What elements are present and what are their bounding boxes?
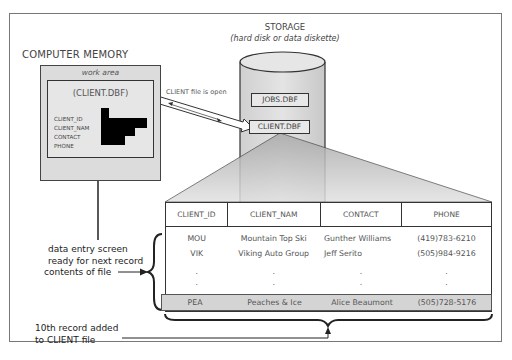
field-label: CLIENT_ID (54, 115, 89, 124)
field-label: PHONE (54, 142, 89, 151)
cell: (419)783-6210 (402, 233, 492, 248)
contents-of-file-label: contents of file (44, 266, 111, 278)
cell: Gunther Williams (320, 233, 402, 248)
added-brace (165, 314, 492, 326)
file-projection (165, 133, 492, 202)
column-header: CLIENT_NAM (227, 203, 320, 227)
cell: (505)984-9216 (402, 248, 492, 263)
cell: Mountain Top Ski (227, 233, 320, 248)
cell: Peaches & Ice (228, 298, 321, 307)
table-row: VIK Viking Auto Group Jeff Serito (505)9… (166, 248, 492, 263)
memory-title: COMPUTER MEMORY (22, 49, 128, 60)
data-entry-screen: (CLIENT.DBF) CLIENT_ID CLIENT_NAM CONTAC… (47, 80, 154, 158)
record-added-label: 10th record added to CLIENT file (35, 322, 118, 346)
file-jobs-dbf: JOBS.DBF (251, 93, 309, 107)
table-header-row: CLIENT_ID CLIENT_NAM CONTACT PHONE (166, 203, 492, 227)
new-record-row: PEA Peaches & Ice Alice Beaumont (505)72… (161, 294, 492, 311)
cell: MOU (166, 233, 228, 248)
field-label: CLIENT_NAM (54, 124, 89, 133)
input-fields-block (101, 108, 149, 146)
cell: VIK (166, 248, 228, 263)
cell: Alice Beaumont (321, 298, 403, 307)
table-row: MOU Mountain Top Ski Gunther Williams (4… (166, 233, 492, 248)
open-file-name: (CLIENT.DBF) (48, 88, 153, 98)
column-header: CLIENT_ID (166, 203, 228, 227)
storage-title: STORAGE (hard disk or data diskette) (220, 22, 350, 44)
field-list: CLIENT_ID CLIENT_NAM CONTACT PHONE (54, 115, 89, 151)
memory-panel: work area (CLIENT.DBF) CLIENT_ID CLIENT_… (40, 65, 161, 181)
cell: (505)728-5176 (403, 298, 491, 307)
cell: PEA (162, 298, 228, 307)
column-header: CONTACT (320, 203, 402, 227)
contents-brace (148, 234, 162, 310)
cell: Jeff Serito (320, 248, 402, 263)
field-label: CONTACT (54, 133, 89, 142)
column-header: PHONE (402, 203, 492, 227)
memory-caption: data entry screen ready for next record (48, 243, 143, 267)
connection-label: CLIENT file is open (166, 88, 227, 96)
work-area-label: work area (41, 68, 160, 77)
file-client-dbf: CLIENT.DBF (249, 120, 310, 134)
cell: Viking Auto Group (227, 248, 320, 263)
